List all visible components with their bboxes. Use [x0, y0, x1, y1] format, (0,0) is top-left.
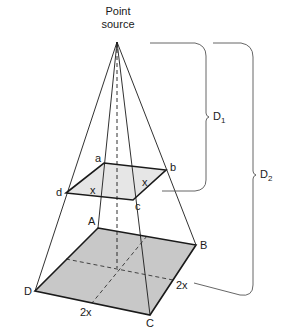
vertex-label-D: D — [24, 286, 32, 297]
side-label-x-right: x — [142, 177, 148, 188]
point-source-line1: Point — [98, 5, 138, 18]
vertex-label-d: d — [56, 187, 62, 198]
distance-label-d2: D2 — [260, 169, 272, 183]
vertex-label-A: A — [88, 216, 95, 227]
vertex-label-a: a — [95, 153, 101, 164]
side-label-x-front: x — [90, 185, 96, 196]
vertex-label-C: C — [146, 318, 154, 329]
side-label-2x-right: 2x — [176, 280, 188, 291]
vertex-label-b: b — [170, 162, 176, 173]
d1-subscript: 1 — [221, 116, 225, 125]
d2-main: D — [260, 168, 268, 180]
pyramid-diagram — [0, 0, 286, 334]
vertex-label-B: B — [200, 240, 207, 251]
d1-main: D — [213, 110, 221, 122]
side-label-2x-front: 2x — [80, 307, 92, 318]
d2-subscript: 2 — [268, 174, 272, 183]
distance-label-d1: D1 — [213, 111, 225, 125]
vertex-label-c: c — [135, 201, 141, 212]
point-source-label: Point source — [98, 5, 138, 31]
d2-bracket — [194, 43, 256, 295]
point-source-line2: source — [98, 18, 138, 31]
